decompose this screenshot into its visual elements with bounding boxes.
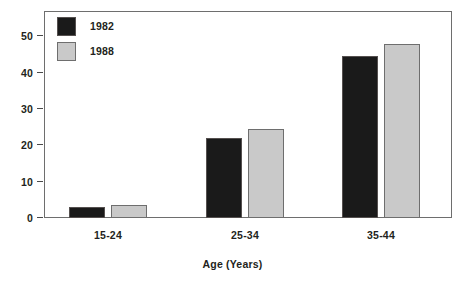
bar-15-24-1988 [111,205,147,218]
y-axis-tick-label: 30 [0,103,44,115]
y-axis-tick-mark [37,108,43,109]
legend-swatch-1982-icon [57,17,76,36]
bar-35-44-1988 [384,44,420,218]
bar-15-24-1982 [69,207,105,218]
legend-swatch-1988-icon [57,42,76,61]
y-axis-tick-mark [37,72,43,73]
x-axis-title: Age (Years) [0,258,465,270]
bar-chart: 01020304050 15-2425-3435-44 Age (Years) … [0,0,465,281]
y-axis-tick-label: 10 [0,176,44,188]
y-axis-tick-mark [37,35,43,36]
y-axis-tick-mark [37,181,43,182]
bar-35-44-1982 [342,56,378,218]
bar-25-34-1982 [206,138,242,218]
x-axis-tick-label-35-44: 35-44 [321,229,441,241]
legend-label-1988: 1988 [90,45,114,57]
legend-label-1982: 1982 [90,20,114,32]
y-axis-tick-label: 20 [0,139,44,151]
y-axis-tick-mark [37,144,43,145]
y-axis-tick-label: 40 [0,67,44,79]
y-axis-tick-label: 50 [0,30,44,42]
bar-25-34-1988 [248,129,284,218]
y-axis-tick-label: 0 [0,212,44,224]
x-axis-tick-label-15-24: 15-24 [48,229,168,241]
x-axis-tick-label-25-34: 25-34 [185,229,305,241]
y-axis-tick-mark [37,217,43,218]
